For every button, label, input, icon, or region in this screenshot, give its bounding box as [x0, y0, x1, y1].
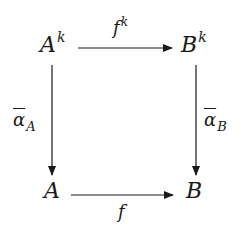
node-a-k: Ak: [40, 34, 65, 56]
node-a-k-sup: k: [57, 29, 65, 45]
node-a-k-base: A: [40, 32, 56, 57]
node-b-k-sup: k: [198, 29, 206, 45]
node-a: A: [44, 180, 60, 202]
node-a-base: A: [44, 178, 60, 203]
label-f-k: fk: [113, 19, 128, 37]
label-alpha-a-sub: A: [26, 119, 35, 134]
node-b-k: Bk: [181, 34, 207, 56]
label-f-base: f: [118, 201, 125, 222]
label-f: f: [118, 203, 125, 221]
label-alpha-b: αB: [204, 111, 227, 129]
commutative-diagram: Ak Bk A B fk f αA αB: [0, 0, 244, 230]
label-f-k-base: f: [113, 17, 120, 38]
label-alpha-a: αA: [13, 111, 36, 129]
label-alpha-a-base: α: [13, 109, 25, 130]
node-b-k-base: B: [181, 32, 197, 57]
label-alpha-b-sub: B: [217, 119, 227, 134]
node-b: B: [186, 180, 202, 202]
label-f-k-sup: k: [121, 15, 128, 29]
label-alpha-b-base: α: [204, 109, 216, 130]
node-b-base: B: [186, 178, 202, 203]
